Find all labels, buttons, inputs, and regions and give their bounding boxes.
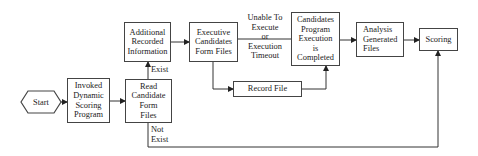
node-scoring: Scoring (419, 28, 458, 51)
arrow-executive-to-record (213, 62, 233, 89)
node-read-candidate-form-files: Read Candidate Form Files (125, 79, 172, 123)
node-additional-recorded-information: Additional Recorded Information (124, 22, 171, 62)
edge-label-unable-to-execute: Unable To Execute or Execution Timeout (240, 13, 290, 61)
start-label: Start (21, 91, 61, 113)
arrow-record-to-completed (302, 66, 326, 89)
node-executive-candidates-form-files: Executive Candidates Form Files (189, 22, 238, 62)
node-record-file: Record File (233, 81, 302, 97)
node-analysis-generated-files: Analysis Generated Files (356, 22, 404, 57)
edge-label-not-exist: Not Exist (151, 125, 168, 144)
node-candidates-program-execution-completed: Candidates Program Execution is Complete… (291, 12, 340, 66)
edge-label-exist: Exist (151, 65, 168, 75)
node-invoked-dynamic-scoring-program: Invoked Dynamic Scoring Program (67, 78, 110, 123)
